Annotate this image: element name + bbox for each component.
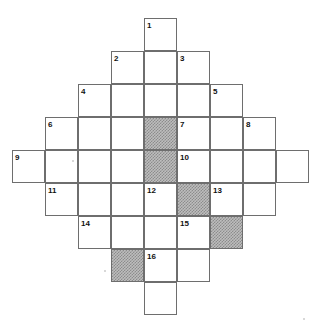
- scan-speck: [104, 270, 106, 272]
- clue-number-16: 16: [147, 253, 156, 261]
- cell-r4c4: [144, 150, 177, 183]
- cell-r6c6: [210, 216, 243, 249]
- cell-r4c6[interactable]: [210, 150, 243, 183]
- cell-r2c4[interactable]: [144, 84, 177, 117]
- cell-r7c3: [111, 249, 144, 282]
- cell-r3c3[interactable]: [111, 117, 144, 150]
- cell-r5c7[interactable]: [243, 183, 276, 216]
- cell-r4c7[interactable]: [243, 150, 276, 183]
- cell-r3c2[interactable]: [78, 117, 111, 150]
- clue-number-12: 12: [147, 187, 156, 195]
- cell-r4c2[interactable]: [78, 150, 111, 183]
- clue-number-2: 2: [114, 55, 118, 63]
- cell-r3c6[interactable]: [210, 117, 243, 150]
- clue-number-11: 11: [48, 187, 56, 195]
- clue-number-5: 5: [213, 88, 217, 96]
- cell-r4c8[interactable]: [276, 150, 309, 183]
- cell-r4c3[interactable]: [111, 150, 144, 183]
- scan-speck: [303, 318, 305, 320]
- cell-r8c4[interactable]: [144, 282, 177, 315]
- clue-number-6: 6: [48, 121, 52, 129]
- clue-number-7: 7: [180, 121, 184, 129]
- cell-r4c1[interactable]: [45, 150, 78, 183]
- clue-number-14: 14: [81, 220, 90, 228]
- scan-speck: [72, 160, 74, 162]
- clue-number-10: 10: [180, 154, 189, 162]
- clue-number-15: 15: [180, 220, 189, 228]
- crossword-grid: 12345678910111213141516: [0, 0, 322, 325]
- clue-number-3: 3: [180, 55, 184, 63]
- cell-r1c4[interactable]: [144, 51, 177, 84]
- cell-r6c3[interactable]: [111, 216, 144, 249]
- cell-r5c2[interactable]: [78, 183, 111, 216]
- cell-r7c5[interactable]: [177, 249, 210, 282]
- cell-r5c3[interactable]: [111, 183, 144, 216]
- cell-r2c5[interactable]: [177, 84, 210, 117]
- cell-r6c4[interactable]: [144, 216, 177, 249]
- cell-r3c4: [144, 117, 177, 150]
- clue-number-9: 9: [15, 154, 19, 162]
- clue-number-1: 1: [147, 22, 151, 30]
- clue-number-13: 13: [213, 187, 222, 195]
- cell-r2c3[interactable]: [111, 84, 144, 117]
- clue-number-8: 8: [246, 121, 250, 129]
- cell-r5c5: [177, 183, 210, 216]
- clue-number-4: 4: [81, 88, 85, 96]
